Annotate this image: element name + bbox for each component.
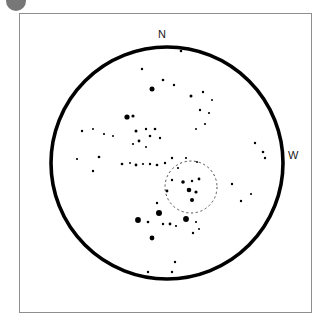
star-point [187, 188, 192, 193]
star-point [250, 193, 252, 195]
star-point [135, 164, 138, 167]
star-point [124, 114, 129, 119]
star-point [254, 142, 256, 144]
star-point [199, 109, 201, 111]
star-point [98, 156, 101, 159]
star-point [171, 271, 173, 273]
star-point [132, 143, 134, 145]
star-layer [76, 50, 266, 273]
star-point [131, 114, 134, 117]
star-point [173, 84, 175, 86]
star-point [196, 161, 198, 163]
direction-label-north: N [158, 29, 166, 40]
star-point [202, 91, 204, 93]
star-point [159, 137, 161, 139]
star-point [112, 135, 114, 137]
star-point [145, 146, 147, 148]
sky-field-svg [0, 0, 326, 328]
star-point [264, 157, 266, 159]
star-point [211, 99, 213, 101]
star-point [147, 271, 149, 273]
star-point [231, 183, 233, 185]
star-point [150, 87, 155, 92]
star-point [149, 135, 152, 138]
star-point [181, 180, 185, 184]
star-point [162, 79, 165, 82]
star-point [194, 190, 197, 193]
star-point [150, 236, 155, 241]
star-point [240, 200, 242, 202]
star-point [180, 50, 183, 53]
star-point [141, 68, 143, 70]
star-point [103, 133, 105, 135]
star-point [262, 151, 265, 154]
star-point [154, 128, 157, 131]
star-point [92, 128, 94, 130]
star-point [145, 128, 147, 130]
star-point [174, 261, 176, 263]
star-point [147, 221, 150, 224]
star-point [164, 162, 166, 164]
star-point [185, 157, 187, 159]
star-point [169, 223, 172, 226]
star-point [76, 158, 78, 160]
star-point [92, 170, 94, 172]
star-point [204, 123, 206, 125]
star-point [198, 178, 201, 181]
star-point [142, 163, 144, 165]
star-point [175, 225, 177, 227]
star-point [121, 163, 124, 166]
star-point [177, 167, 179, 169]
star-point [190, 95, 193, 98]
star-point [166, 190, 169, 193]
star-point [156, 210, 162, 216]
star-point [191, 180, 193, 182]
star-point [138, 140, 141, 143]
star-point [192, 232, 194, 234]
field-of-view-circle [51, 47, 283, 279]
star-point [198, 228, 200, 230]
star-point [190, 198, 194, 202]
star-point [171, 157, 173, 159]
direction-label-west: W [288, 150, 298, 161]
star-point [149, 163, 151, 165]
star-point [195, 128, 197, 130]
star-point [162, 223, 164, 225]
star-point [156, 202, 158, 204]
star-point [129, 162, 131, 164]
star-point [135, 217, 141, 223]
star-point [156, 164, 159, 167]
star-point [195, 221, 197, 223]
star-point [81, 130, 83, 132]
target-marker-circle [165, 161, 217, 213]
star-point [183, 216, 189, 222]
star-chart-figure: N W [0, 0, 326, 328]
star-point [171, 179, 173, 181]
star-point [135, 130, 138, 133]
star-point [208, 112, 210, 114]
